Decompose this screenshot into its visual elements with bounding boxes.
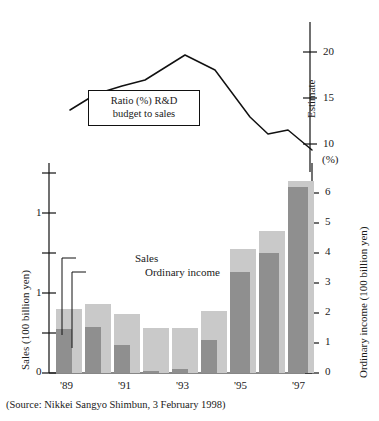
right-tick-label-5: 5	[325, 216, 331, 227]
bar-group	[172, 328, 198, 373]
left-axis-title: Sales (100 billion yen)	[20, 270, 31, 370]
income-bar	[172, 369, 188, 373]
x-tick-label-89: '89	[60, 380, 73, 391]
x-tick-label-91: '91	[118, 380, 131, 391]
percent-tick-label-20: 20	[323, 46, 334, 57]
left-tick-label-1: 1	[36, 287, 42, 298]
income-bar	[230, 272, 250, 373]
right-tick-label-4: 4	[325, 246, 331, 257]
right-tick-label-2: 2	[325, 306, 331, 317]
percent-tick-label-15: 15	[323, 92, 334, 103]
bar-group	[259, 231, 285, 373]
right-axis-title: Ordinary income (100 billion yen)	[358, 226, 369, 378]
estimate-axis-label: Estimate	[306, 80, 317, 119]
x-tick-label-97: '97	[292, 380, 305, 391]
legend-label-ordinary-income: Ordinary income	[145, 267, 220, 278]
income-bar	[143, 371, 159, 373]
right-tick-label-6: 6	[325, 186, 331, 197]
ratio-annotation-box: Ratio (%) R&D budget to sales	[88, 90, 200, 126]
chart-figure: 20 15 10 (%) Estimate Ratio (%) R&D budg…	[0, 0, 379, 421]
income-bar	[288, 187, 308, 373]
left-tick-label-2: 1	[36, 207, 42, 218]
income-bar	[201, 340, 217, 373]
annotation-line-2: budget to sales	[113, 108, 175, 119]
bar-group	[288, 181, 314, 373]
bar-group	[85, 304, 111, 373]
sales-bar	[143, 328, 169, 373]
bar-group	[56, 309, 82, 373]
bar-group	[143, 328, 169, 373]
bar-group	[201, 311, 227, 373]
right-tick-label-1: 1	[325, 336, 331, 347]
annotation-line-1: Ratio (%) R&D	[111, 95, 178, 106]
percent-tick-label-10: 10	[323, 138, 334, 149]
right-tick-label-0: 0	[325, 366, 331, 377]
sales-bar	[172, 328, 198, 373]
x-tick-label-93: '93	[176, 380, 189, 391]
income-bar	[259, 253, 279, 373]
source-note: (Source: Nikkei Sangyo Shimbun, 3 Februa…	[6, 400, 226, 411]
x-tick-label-95: '95	[234, 380, 247, 391]
bar-group	[114, 314, 140, 373]
bar-group	[230, 249, 256, 373]
income-bar	[85, 327, 101, 373]
right-tick-label-3: 3	[325, 276, 331, 287]
income-bar	[114, 345, 130, 373]
left-tick-label-0: 0	[36, 366, 42, 377]
income-bar	[56, 329, 72, 373]
legend-label-sales: Sales	[135, 253, 158, 264]
